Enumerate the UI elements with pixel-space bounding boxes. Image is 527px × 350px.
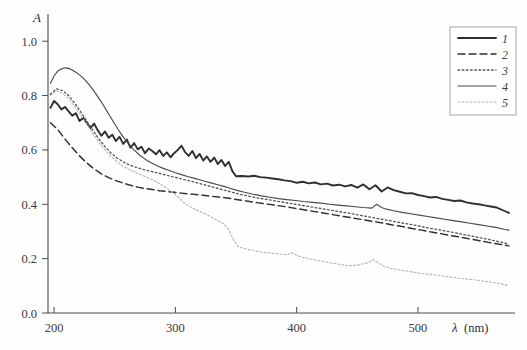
legend-label-5: 5 (502, 96, 508, 110)
series-curve-3 (50, 89, 509, 244)
series-curve-1 (50, 101, 509, 213)
y-axis-title: A (32, 10, 41, 25)
y-tick-label: 0.8 (21, 89, 37, 103)
series-curve-5 (50, 91, 509, 286)
x-tick-label: 400 (287, 321, 306, 335)
y-tick-label: 0.2 (21, 252, 37, 266)
x-axis-ticks: 200300400500 (45, 307, 428, 335)
legend-label-1: 1 (502, 32, 508, 46)
legend-label-2: 2 (502, 48, 508, 62)
y-tick-label: 0.0 (21, 307, 37, 321)
y-tick-label: 1.0 (21, 35, 37, 49)
y-axis-ticks: 0.00.20.40.60.81.0 (21, 35, 48, 321)
legend: 12345 (450, 27, 516, 115)
axes-group (48, 14, 515, 313)
y-tick-label: 0.6 (21, 143, 37, 157)
x-axis-symbol: λ (451, 320, 458, 335)
x-tick-label: 200 (45, 321, 64, 335)
x-tick-label: 300 (166, 321, 185, 335)
x-tick-label: 500 (409, 321, 428, 335)
absorbance-spectrum-chart: 0.00.20.40.60.81.0 200300400500 A λ (nm)… (0, 0, 527, 350)
x-axis-unit: (nm) (464, 321, 488, 335)
series-curve-2 (50, 123, 509, 246)
figure-container: 0.00.20.40.60.81.0 200300400500 A λ (nm)… (0, 0, 527, 350)
legend-label-4: 4 (502, 80, 508, 94)
y-tick-label: 0.4 (21, 198, 37, 212)
legend-label-3: 3 (501, 64, 508, 78)
curves-group (50, 68, 509, 286)
